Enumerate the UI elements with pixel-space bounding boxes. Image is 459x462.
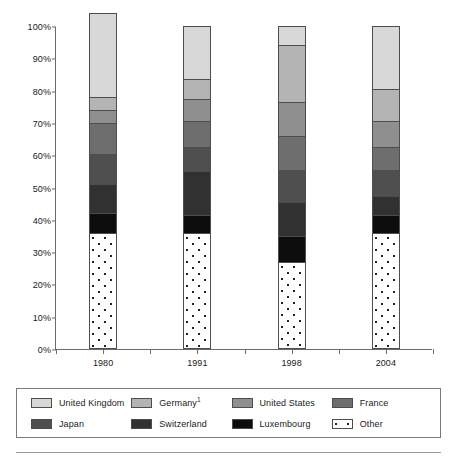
y-axis-tick-label: 30% bbox=[33, 248, 51, 258]
y-axis-tick-mark bbox=[52, 253, 56, 254]
bar-segment-japan bbox=[183, 147, 211, 171]
bar-segment-luxembourg bbox=[89, 213, 117, 232]
legend-item-switzerland[interactable]: Switzerland bbox=[131, 419, 231, 429]
legend-item-france[interactable]: France bbox=[332, 398, 432, 408]
x-axis-tick-mark bbox=[433, 349, 434, 354]
bar-1980 bbox=[89, 13, 117, 349]
chart-legend: United KingdomGermany1United StatesFranc… bbox=[16, 388, 441, 438]
y-axis-tick-mark bbox=[52, 59, 56, 60]
bar-segment-united-states bbox=[89, 110, 117, 123]
bar-segment-united-kingdom bbox=[278, 26, 306, 45]
bar-segment-other bbox=[372, 233, 400, 349]
plot-frame: 0%10%20%30%40%50%60%70%80%90%100%1980199… bbox=[55, 27, 432, 350]
y-axis-tick-label: 10% bbox=[33, 313, 51, 323]
bar-segment-united-kingdom bbox=[183, 26, 211, 79]
legend-swatch-icon bbox=[131, 419, 152, 429]
bar-segment-germany bbox=[372, 89, 400, 121]
bar-segment-united-states bbox=[183, 99, 211, 122]
legend-item-label: Other bbox=[360, 419, 383, 429]
bar-segment-other bbox=[183, 233, 211, 349]
bar-segment-germany bbox=[278, 45, 306, 102]
y-axis-tick-mark bbox=[52, 156, 56, 157]
legend-item-other[interactable]: Other bbox=[332, 419, 432, 429]
bar-segment-france bbox=[89, 123, 117, 154]
legend-item-germany[interactable]: Germany1 bbox=[131, 398, 231, 408]
legend-swatch-icon bbox=[31, 398, 52, 408]
y-axis-tick-label: 20% bbox=[33, 280, 51, 290]
x-axis-tick-mark bbox=[150, 349, 151, 354]
x-axis-tick-mark bbox=[197, 349, 198, 354]
legend-item-united-states[interactable]: United States bbox=[232, 398, 332, 408]
x-axis-tick-mark bbox=[245, 349, 246, 354]
bar-segment-germany bbox=[89, 97, 117, 110]
y-axis-tick-mark bbox=[52, 27, 56, 28]
bar-segment-japan bbox=[372, 170, 400, 196]
y-axis-tick-label: 100% bbox=[28, 22, 51, 32]
x-axis-tick-label: 1998 bbox=[281, 358, 301, 368]
bar-segment-luxembourg bbox=[278, 236, 306, 262]
legend-swatch-icon bbox=[232, 419, 253, 429]
bar-segment-japan bbox=[89, 154, 117, 185]
bar-segment-switzerland bbox=[89, 184, 117, 213]
bar-segment-japan bbox=[278, 170, 306, 202]
bar-segment-united-states bbox=[372, 121, 400, 147]
legend-item-label: Switzerland bbox=[159, 419, 207, 429]
y-axis-tick-mark bbox=[52, 123, 56, 124]
bar-segment-france bbox=[183, 121, 211, 147]
y-axis-tick-label: 70% bbox=[33, 119, 51, 129]
y-axis-tick-mark bbox=[52, 285, 56, 286]
legend-item-label: United Kingdom bbox=[59, 398, 124, 408]
bar-segment-united-states bbox=[278, 102, 306, 136]
bar-1991 bbox=[183, 26, 211, 349]
legend-swatch-icon bbox=[31, 419, 52, 429]
legend-swatch-icon bbox=[131, 398, 152, 408]
bar-segment-switzerland bbox=[372, 196, 400, 215]
y-axis-tick-mark bbox=[52, 317, 56, 318]
x-axis-tick-mark bbox=[103, 349, 104, 354]
legend-swatch-icon bbox=[232, 398, 253, 408]
stacked-bar-chart: 0%10%20%30%40%50%60%70%80%90%100%1980199… bbox=[0, 0, 459, 380]
legend-item-united-kingdom[interactable]: United Kingdom bbox=[31, 398, 131, 408]
y-axis-tick-mark bbox=[52, 91, 56, 92]
bar-segment-other bbox=[278, 262, 306, 349]
y-axis-tick-label: 60% bbox=[33, 151, 51, 161]
bar-segment-luxembourg bbox=[183, 215, 211, 233]
legend-swatch-icon bbox=[332, 419, 353, 429]
legend-item-label: France bbox=[360, 398, 389, 408]
legend-item-label: United States bbox=[260, 398, 315, 408]
legend-item-label: Japan bbox=[59, 419, 84, 429]
x-axis-tick-label: 2004 bbox=[376, 358, 396, 368]
legend-item-luxembourg[interactable]: Luxembourg bbox=[232, 419, 332, 429]
bar-segment-united-kingdom bbox=[89, 13, 117, 97]
bar-segment-switzerland bbox=[278, 202, 306, 236]
bar-segment-germany bbox=[183, 79, 211, 98]
x-axis-tick-label: 1991 bbox=[187, 358, 207, 368]
y-axis-tick-label: 80% bbox=[33, 87, 51, 97]
legend-item-label: Luxembourg bbox=[260, 419, 311, 429]
y-axis-tick-label: 0% bbox=[38, 345, 51, 355]
y-axis-tick-mark bbox=[52, 188, 56, 189]
bar-segment-switzerland bbox=[183, 171, 211, 215]
bar-1998 bbox=[278, 26, 306, 349]
footer-divider bbox=[16, 452, 441, 453]
legend-item-label: Germany1 bbox=[159, 398, 200, 408]
x-axis-tick-mark bbox=[339, 349, 340, 354]
x-axis-tick-mark bbox=[56, 349, 57, 354]
x-axis-tick-mark bbox=[292, 349, 293, 354]
legend-grid: United KingdomGermany1United StatesFranc… bbox=[17, 389, 440, 437]
legend-item-japan[interactable]: Japan bbox=[31, 419, 131, 429]
x-axis-tick-label: 1980 bbox=[93, 358, 113, 368]
bar-segment-other bbox=[89, 233, 117, 349]
y-axis-tick-label: 50% bbox=[33, 184, 51, 194]
x-axis-tick-mark bbox=[386, 349, 387, 354]
bar-segment-united-kingdom bbox=[372, 26, 400, 89]
legend-swatch-icon bbox=[332, 398, 353, 408]
y-axis-tick-label: 40% bbox=[33, 216, 51, 226]
y-axis-tick-label: 90% bbox=[33, 54, 51, 64]
bar-segment-luxembourg bbox=[372, 215, 400, 233]
bar-2004 bbox=[372, 26, 400, 349]
bar-segment-france bbox=[372, 147, 400, 170]
bar-segment-france bbox=[278, 136, 306, 170]
y-axis-tick-mark bbox=[52, 220, 56, 221]
